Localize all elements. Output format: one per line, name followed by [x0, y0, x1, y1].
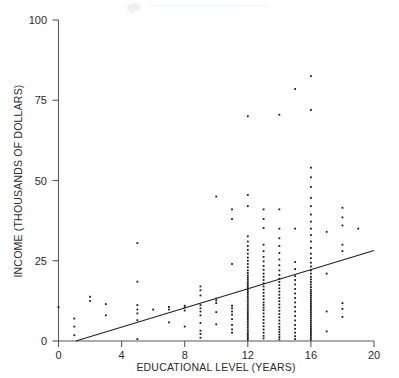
data-point — [215, 311, 217, 313]
data-point — [326, 231, 328, 233]
data-point — [231, 329, 233, 331]
axis-group — [59, 20, 375, 341]
data-point — [247, 330, 249, 332]
data-point — [326, 330, 328, 332]
data-point — [278, 329, 280, 331]
data-point — [136, 312, 138, 314]
data-point — [310, 293, 312, 295]
data-point — [263, 295, 265, 297]
data-point — [247, 282, 249, 284]
data-point — [136, 242, 138, 244]
data-point — [263, 276, 265, 278]
data-point — [310, 304, 312, 306]
data-point — [278, 252, 280, 254]
data-point — [357, 228, 359, 230]
data-point — [247, 245, 249, 247]
data-point — [310, 300, 312, 302]
data-point — [247, 275, 249, 277]
data-point — [310, 221, 312, 223]
data-point — [294, 324, 296, 326]
data-point — [310, 320, 312, 322]
data-point — [310, 321, 312, 323]
data-point — [247, 205, 249, 207]
data-point — [342, 217, 344, 219]
data-point — [89, 300, 91, 302]
data-point — [310, 291, 312, 293]
data-point — [263, 335, 265, 337]
data-point — [263, 208, 265, 210]
data-point — [263, 218, 265, 220]
x-tick-label: 20 — [368, 349, 380, 361]
data-point — [247, 194, 249, 196]
data-point — [294, 338, 296, 340]
data-point — [342, 225, 344, 227]
data-point — [294, 302, 296, 304]
data-point — [263, 304, 265, 306]
data-point — [136, 319, 138, 321]
x-tick-label: 16 — [305, 349, 317, 361]
data-point — [310, 253, 312, 255]
data-point — [310, 205, 312, 207]
data-point — [278, 245, 280, 247]
data-point — [310, 281, 312, 283]
data-point — [278, 287, 280, 289]
data-point — [278, 294, 280, 296]
data-point — [294, 328, 296, 330]
data-point — [263, 279, 265, 281]
data-point — [200, 286, 202, 288]
data-point — [231, 305, 233, 307]
data-point — [263, 325, 265, 327]
data-point — [278, 269, 280, 271]
data-point — [263, 244, 265, 246]
data-point — [278, 228, 280, 230]
regression-trendline — [76, 250, 374, 341]
data-point — [310, 308, 312, 310]
data-point — [310, 276, 312, 278]
data-point — [310, 273, 312, 275]
data-point — [310, 284, 312, 286]
data-point — [200, 311, 202, 313]
data-point — [231, 307, 233, 309]
data-point — [247, 115, 249, 117]
data-point — [247, 278, 249, 280]
data-point — [200, 314, 202, 316]
data-point — [136, 281, 138, 283]
data-point — [263, 265, 265, 267]
data-point — [310, 310, 312, 312]
data-point — [200, 322, 202, 324]
data-point — [278, 323, 280, 325]
data-point — [184, 305, 186, 307]
data-point — [310, 247, 312, 249]
data-point — [342, 250, 344, 252]
data-point — [310, 306, 312, 308]
data-point — [247, 325, 249, 327]
data-point — [278, 334, 280, 336]
data-point — [310, 278, 312, 280]
data-point — [294, 332, 296, 334]
data-point — [247, 309, 249, 311]
data-point — [294, 279, 296, 281]
data-point — [310, 286, 312, 288]
data-point — [310, 323, 312, 325]
data-point — [263, 309, 265, 311]
data-point — [247, 257, 249, 259]
data-point — [294, 268, 296, 270]
data-point — [247, 307, 249, 309]
data-point — [105, 314, 107, 316]
data-point — [278, 297, 280, 299]
data-point — [200, 337, 202, 339]
y-axis-title: INCOME (THOUSANDS OF DOLLARS) — [12, 84, 24, 277]
y-tick-label: 75 — [35, 94, 47, 106]
data-point — [278, 316, 280, 318]
data-point — [73, 318, 75, 320]
data-point — [342, 244, 344, 246]
data-point — [247, 334, 249, 336]
data-point — [247, 277, 249, 279]
data-point — [263, 307, 265, 309]
data-point — [278, 264, 280, 266]
data-point — [247, 319, 249, 321]
data-point — [310, 316, 312, 318]
data-point — [215, 196, 217, 198]
data-point — [247, 317, 249, 319]
data-point — [294, 275, 296, 277]
